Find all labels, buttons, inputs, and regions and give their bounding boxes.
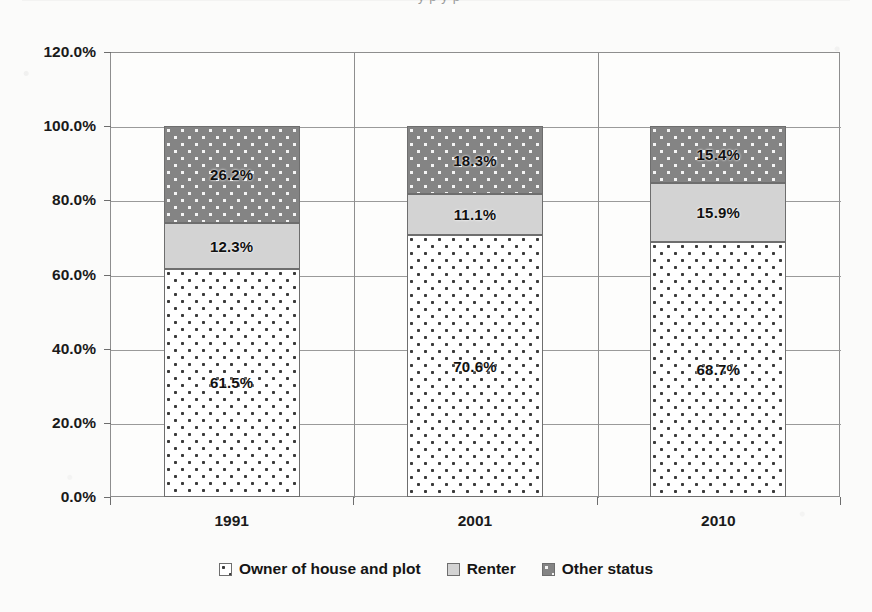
x-axis-category-label: 1991	[172, 512, 292, 530]
x-axis-tick	[353, 497, 354, 505]
bar-segment: 15.4%	[650, 126, 786, 183]
bar-segment: 18.3%	[407, 126, 543, 194]
y-axis-tick-label: 40.0%	[0, 340, 96, 358]
category-divider	[598, 53, 599, 498]
legend-item[interactable]: Renter	[447, 560, 516, 578]
chart-legend: Owner of house and plotRenterOther statu…	[0, 560, 872, 578]
scan-header-fragment-text: y p y p	[418, 0, 461, 4]
y-axis-tick-label: 80.0%	[0, 191, 96, 209]
legend-item-label: Renter	[467, 560, 516, 578]
bar-segment: 70.6%	[407, 235, 543, 497]
bar-segment-value-label: 68.7%	[697, 361, 741, 378]
legend-item[interactable]: Owner of house and plot	[219, 560, 421, 578]
legend-swatch-icon	[542, 563, 555, 576]
bar-segment-value-label: 15.9%	[697, 204, 741, 221]
bar-segment: 15.9%	[650, 183, 786, 242]
bar-segment-value-label: 15.4%	[697, 146, 741, 163]
bar-segment-value-label: 12.3%	[210, 238, 254, 255]
legend-item[interactable]: Other status	[542, 560, 653, 578]
legend-swatch-icon	[447, 563, 460, 576]
y-axis-tick-label: 0.0%	[0, 488, 96, 506]
category-divider	[354, 53, 355, 498]
y-axis-tick	[104, 126, 111, 127]
x-axis-tick	[840, 497, 841, 505]
y-axis-tick-label: 60.0%	[0, 266, 96, 284]
y-axis-tick	[104, 52, 111, 53]
x-axis-category-label: 2001	[415, 512, 535, 530]
legend-item-label: Owner of house and plot	[239, 560, 421, 578]
bar-segment-value-label: 18.3%	[453, 152, 497, 169]
y-axis-tick	[104, 349, 111, 350]
y-axis-tick-label: 100.0%	[0, 117, 96, 135]
bar-segment-value-label: 11.1%	[454, 206, 497, 223]
y-axis-tick	[104, 275, 111, 276]
x-axis-tick	[597, 497, 598, 505]
y-axis-tick-label: 120.0%	[0, 43, 96, 61]
bar-segment: 61.5%	[164, 269, 300, 497]
bar-segment-value-label: 26.2%	[210, 166, 254, 183]
bar-segment: 12.3%	[164, 223, 300, 269]
x-axis-category-label: 2010	[658, 512, 778, 530]
bar-segment-value-label: 61.5%	[210, 374, 254, 391]
bar-segment: 68.7%	[650, 242, 786, 497]
scan-header-fragment: y p y p	[0, 0, 872, 18]
y-axis-tick	[104, 423, 111, 424]
y-axis-tick	[104, 200, 111, 201]
stacked-bar-chart: 0.0%20.0%40.0%60.0%80.0%100.0%120.0%1991…	[0, 0, 872, 612]
legend-swatch-icon	[219, 563, 232, 576]
bar-segment: 11.1%	[407, 194, 543, 235]
y-axis-tick-label: 20.0%	[0, 414, 96, 432]
bar-segment: 26.2%	[164, 126, 300, 223]
legend-item-label: Other status	[562, 560, 653, 578]
bar-segment-value-label: 70.6%	[453, 358, 497, 375]
x-axis-tick	[110, 497, 111, 505]
